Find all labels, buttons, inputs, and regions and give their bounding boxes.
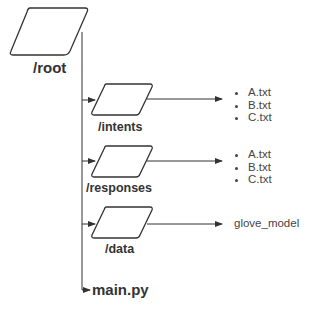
responses-folder-shape <box>92 146 153 177</box>
file-item: C.txt <box>248 173 272 186</box>
glove-model-text: glove_model <box>234 217 299 229</box>
root-label: /root <box>33 59 66 76</box>
file-item: C.txt <box>248 111 272 124</box>
main-py-label: main.py <box>92 281 149 298</box>
responses-file-list: A.txt B.txt C.txt <box>228 148 272 186</box>
responses-label: /responses <box>86 181 152 195</box>
file-item: B.txt <box>248 99 272 112</box>
data-folder-shape <box>92 207 153 238</box>
root-folder-shape <box>10 8 87 55</box>
data-label: /data <box>105 242 134 256</box>
file-item: B.txt <box>248 161 272 174</box>
file-item: A.txt <box>248 148 272 161</box>
intents-folder-shape <box>92 84 153 115</box>
intents-file-list: A.txt B.txt C.txt <box>228 86 272 124</box>
intents-label: /intents <box>98 120 142 134</box>
file-item: A.txt <box>248 86 272 99</box>
